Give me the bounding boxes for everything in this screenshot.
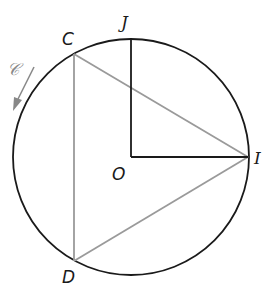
segment-ci bbox=[74, 54, 248, 157]
label-i: I bbox=[253, 148, 261, 168]
label-o: O bbox=[112, 164, 125, 184]
segment-di bbox=[74, 157, 248, 261]
orientation-label: 𝒞 bbox=[7, 59, 24, 79]
label-j: J bbox=[118, 12, 129, 32]
label-d: D bbox=[62, 267, 75, 286]
geometry-diagram: 𝒞 C J O I D bbox=[0, 0, 265, 286]
label-c: C bbox=[62, 29, 74, 49]
